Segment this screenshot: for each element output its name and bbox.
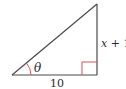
base-label: 10 xyxy=(50,77,64,89)
side-label-rest: + 1 xyxy=(107,37,126,50)
triangle-diagram: θ 10 x + 1 xyxy=(0,0,126,89)
angle-arc xyxy=(27,63,31,75)
angle-label: θ xyxy=(34,61,42,75)
side-label: x + 1 xyxy=(101,37,126,50)
right-angle-marker xyxy=(82,62,97,75)
hypotenuse xyxy=(12,4,97,75)
